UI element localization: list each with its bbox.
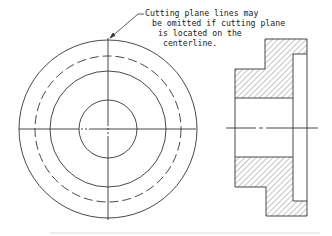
front-view [19, 38, 197, 220]
note-line-3: is located on the [158, 28, 242, 38]
section-view [226, 39, 318, 216]
note-line-4: centerline. [163, 38, 217, 48]
lower-section-hatch [235, 157, 307, 216]
upper-section-hatch [235, 39, 307, 98]
technical-drawing: Cutting plane lines may be omitted if cu… [0, 0, 332, 236]
note-leader [110, 14, 144, 38]
note-line-2: be omitted if cutting plane [152, 18, 285, 28]
note-line-1: Cutting plane lines may [145, 8, 258, 18]
